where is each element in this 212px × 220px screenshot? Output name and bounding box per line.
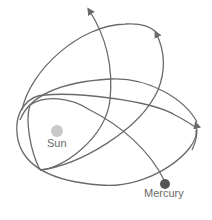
mercury-precession-diagram: Sun Mercury <box>0 0 212 220</box>
orbit-path-2 <box>20 79 197 122</box>
orbit-path-1 <box>17 94 196 185</box>
sun-icon <box>51 125 63 137</box>
orbit-arrow-right <box>192 124 197 150</box>
sun-label: Sun <box>47 137 67 149</box>
mercury-label: Mercury <box>144 187 184 199</box>
orbit-path-4 <box>22 24 156 110</box>
